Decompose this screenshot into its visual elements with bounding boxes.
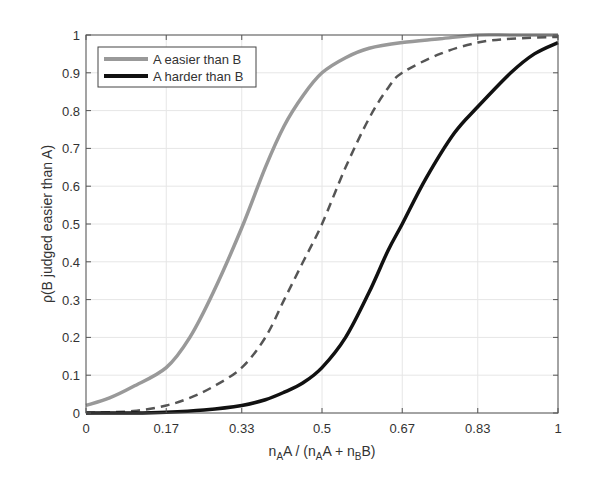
x-tick-label: 0.33 <box>229 421 254 436</box>
y-axis-label: ρ(B judged easier than A) <box>39 145 55 303</box>
x-tick-label: 0.17 <box>154 421 179 436</box>
x-tick-label: 0.83 <box>465 421 490 436</box>
x-tick-label: 0.5 <box>313 421 331 436</box>
y-tick-label: 0.5 <box>62 217 80 232</box>
legend-label-a-easier: A easier than B <box>153 52 241 67</box>
y-tick-labels: 00.10.20.30.40.50.60.70.80.91 <box>62 28 80 421</box>
legend-label-a-harder: A harder than B <box>153 69 243 84</box>
x-tick-labels: 00.170.330.50.670.831 <box>82 421 561 436</box>
y-tick-label: 0.6 <box>62 179 80 194</box>
x-tick-label: 0.67 <box>390 421 415 436</box>
y-tick-label: 0 <box>73 406 80 421</box>
x-axis-label: nAA / (nAA + nBB) <box>269 443 376 462</box>
chart: 00.170.330.50.670.831 00.10.20.30.40.50.… <box>0 0 592 491</box>
y-tick-label: 0.1 <box>62 368 80 383</box>
legend: A easier than B A harder than B <box>98 47 256 87</box>
x-tick-label: 1 <box>554 421 561 436</box>
y-tick-label: 0.9 <box>62 66 80 81</box>
y-tick-label: 1 <box>73 28 80 43</box>
y-tick-label: 0.2 <box>62 330 80 345</box>
y-tick-label: 0.7 <box>62 141 80 156</box>
y-tick-label: 0.3 <box>62 293 80 308</box>
x-tick-label: 0 <box>82 421 89 436</box>
y-tick-label: 0.4 <box>62 255 80 270</box>
y-tick-label: 0.8 <box>62 104 80 119</box>
